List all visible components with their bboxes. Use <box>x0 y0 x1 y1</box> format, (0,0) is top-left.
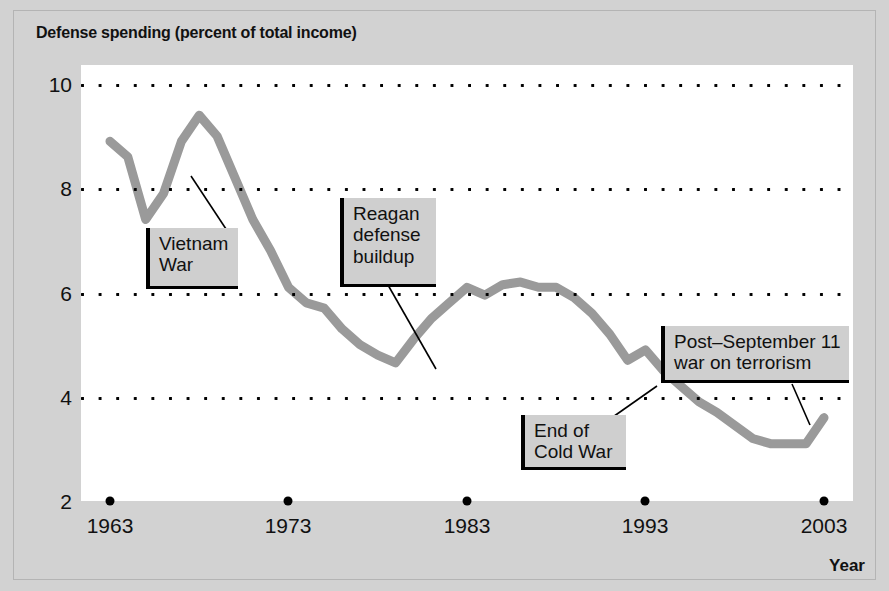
y-tick-4: 4 <box>32 387 72 408</box>
annotation-post-september-11: Post–September 11 war on terrorism <box>661 326 849 383</box>
x-axis: 1963 1973 1983 1993 2003 <box>81 501 853 561</box>
annotation-end-of-cold-war: End of Cold War <box>521 415 626 470</box>
y-tick-6: 6 <box>32 283 72 304</box>
gridline-4 <box>81 397 853 400</box>
x-tick-dot-1993 <box>641 497 650 506</box>
chart-title: Defense spending (percent of total incom… <box>36 24 357 42</box>
annotation-vietnam-war: Vietnam War <box>146 228 238 289</box>
x-tick-dot-1973 <box>284 497 293 506</box>
x-tick-dot-1963 <box>106 497 115 506</box>
y-axis: 10 8 6 4 2 <box>24 65 72 501</box>
annotation-reagan-defense-buildup: Reagan defense buildup <box>340 198 436 287</box>
y-tick-8: 8 <box>32 178 72 199</box>
y-tick-10: 10 <box>32 74 72 95</box>
y-tick-2: 2 <box>32 491 72 512</box>
x-tick-dot-2003 <box>820 497 829 506</box>
x-axis-title: Year <box>829 556 865 576</box>
chart-figure: Defense spending (percent of total incom… <box>0 0 889 591</box>
x-tick-1983: 1983 <box>444 515 491 536</box>
gridline-10 <box>81 84 853 87</box>
x-tick-dot-1983 <box>463 497 472 506</box>
x-tick-1973: 1973 <box>265 515 312 536</box>
x-tick-1993: 1993 <box>622 515 669 536</box>
x-tick-2003: 2003 <box>801 515 848 536</box>
gridline-6 <box>81 293 853 296</box>
gridline-8 <box>81 188 853 191</box>
x-tick-1963: 1963 <box>87 515 134 536</box>
